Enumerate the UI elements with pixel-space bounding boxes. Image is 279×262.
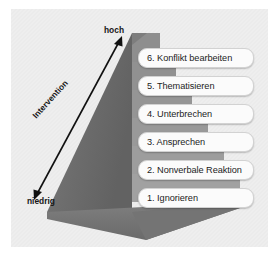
step-label-3: 3. Ansprechen [138,132,254,152]
step-label-6: 6. Konflikt bearbeiten [138,48,254,68]
pyramid-figure [0,0,279,262]
step-label-5: 5. Thematisieren [138,76,254,96]
axis-label-low: niedrig [27,196,55,206]
pyramid-left-face [47,33,132,212]
step-label-1: 1. Ignorieren [138,188,254,208]
diagram-screenshot: hoch niedrig Intervention 6. Konflikt be… [0,0,279,262]
step-label-2: 2. Nonverbale Reaktion [138,160,254,180]
axis-label-high: hoch [104,25,124,35]
step-label-4: 4. Unterbrechen [138,104,254,124]
